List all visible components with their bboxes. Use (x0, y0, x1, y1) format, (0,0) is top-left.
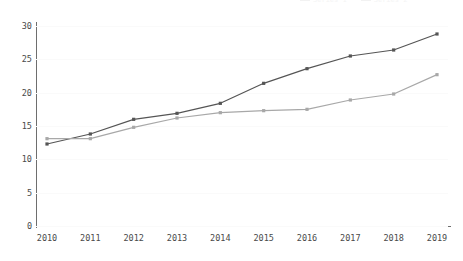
x-tick-label: 2015 (253, 233, 273, 243)
gridline (36, 226, 448, 227)
data-point-marker (262, 82, 265, 85)
series-line (47, 34, 437, 144)
y-tick-label: 10 (6, 154, 32, 164)
y-tick-label: 0 (6, 221, 32, 231)
data-point-marker (175, 116, 178, 119)
plot-area (36, 26, 448, 226)
y-tick-label: 5 (6, 188, 32, 198)
data-point-marker (132, 118, 135, 121)
legend-swatch-icon (361, 0, 371, 1)
data-point-marker (305, 108, 308, 111)
series-layer (36, 26, 448, 226)
data-point-marker (305, 67, 308, 70)
legend-swatch-icon (300, 0, 310, 1)
x-tick-label: 2016 (297, 233, 317, 243)
series-1 (45, 32, 438, 145)
y-tick-label: 30 (6, 21, 32, 31)
legend-item-series-1: Series 1 (300, 0, 347, 4)
legend-item-series-2: Series 2 (361, 0, 408, 4)
x-tick-label: 2018 (383, 233, 403, 243)
x-tick-label: 2012 (123, 233, 143, 243)
x-axis-tick-labels: 2010201120122013201420152016201720182019 (0, 233, 463, 253)
legend-label: Series 1 (313, 0, 347, 4)
y-tick-label: 25 (6, 54, 32, 64)
series-2 (45, 73, 438, 140)
y-tick-label: 20 (6, 88, 32, 98)
x-tick-label: 2010 (37, 233, 57, 243)
data-point-marker (392, 48, 395, 51)
chart-legend: Series 1 Series 2 (300, 0, 407, 4)
data-point-marker (262, 109, 265, 112)
data-point-marker (219, 102, 222, 105)
y-axis-tick-labels: 051015202530 (0, 0, 32, 261)
data-point-marker (89, 132, 92, 135)
x-tick-label: 2014 (210, 233, 230, 243)
x-tick-label: 2011 (80, 233, 100, 243)
data-point-marker (132, 126, 135, 129)
data-point-marker (89, 137, 92, 140)
data-point-marker (349, 98, 352, 101)
line-chart: Series 1 Series 2 051015202530 201020112… (0, 0, 463, 261)
data-point-marker (45, 137, 48, 140)
data-point-marker (435, 32, 438, 35)
y-tick-label: 15 (6, 121, 32, 131)
data-point-marker (175, 112, 178, 115)
data-point-marker (45, 142, 48, 145)
legend-label: Series 2 (374, 0, 408, 4)
x-tick-label: 2013 (167, 233, 187, 243)
data-point-marker (219, 111, 222, 114)
data-point-marker (349, 54, 352, 57)
x-tick-label: 2019 (427, 233, 447, 243)
data-point-marker (435, 73, 438, 76)
x-tick-label: 2017 (340, 233, 360, 243)
data-point-marker (392, 92, 395, 95)
